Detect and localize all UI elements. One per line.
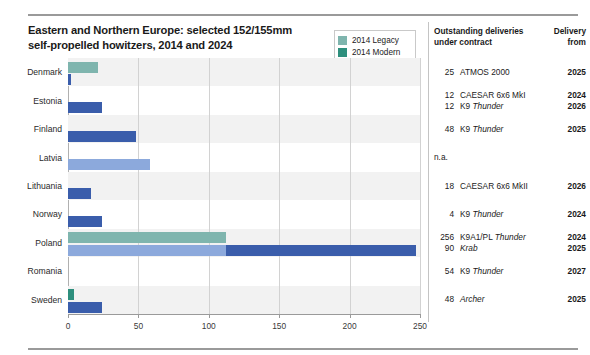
table-cell-system: CAESAR 6x6 MkI (460, 90, 525, 101)
table-cell-quantity: 54 (434, 266, 454, 277)
table-row: 48K9 Thunder2025 (434, 124, 584, 135)
bottom-divider (28, 348, 578, 350)
table-cell-year: 2025 (538, 294, 586, 305)
title-line-2: self-propelled howitzers, 2014 and 2024 (28, 38, 328, 53)
gridline (209, 58, 210, 314)
legend-item-label: 2014 Modern (352, 48, 400, 57)
bar-segment (68, 216, 102, 227)
axis-tick-label: 50 (134, 321, 143, 331)
table-row: 54K9 Thunder2027 (434, 266, 584, 277)
system-name-plain: K9A1/PL (460, 232, 495, 242)
gridline (279, 58, 280, 314)
axis-tick-label: 250 (413, 321, 427, 331)
system-name-italic: Thunder (472, 101, 503, 111)
row-band (68, 286, 420, 314)
legend-item-label: 2014 Legacy (352, 36, 399, 45)
system-name-plain: ATMOS 2000 (460, 67, 510, 77)
table-row: 4K9 Thunder2024 (434, 209, 584, 220)
category-label: Norway (33, 209, 62, 219)
table-cell-quantity: 25 (434, 67, 454, 78)
table-cell-year: 2024 (538, 232, 586, 243)
table-row: 12CAESAR 6x6 MkI2024 (434, 90, 584, 101)
system-name-plain: K9 (460, 124, 472, 134)
system-name-plain: CAESAR 6x6 MkII (460, 181, 528, 191)
bar-segment (68, 102, 102, 113)
axis-tick-label: 200 (343, 321, 357, 331)
table-cell-quantity: 12 (434, 101, 454, 112)
table-cell-quantity: 4 (434, 209, 454, 220)
category-label: Lithuania (27, 181, 62, 191)
table-header-delivery-line2: from (538, 37, 586, 48)
axis-tick-label: 100 (202, 321, 216, 331)
system-name-plain: CAESAR 6x6 MkI (460, 90, 525, 100)
system-name-italic: Thunder (472, 209, 503, 219)
gridline (138, 58, 139, 314)
table-cell-system: Krab (460, 243, 478, 254)
category-label: Denmark (27, 67, 62, 77)
system-name-plain: K9 (460, 209, 472, 219)
axis-tick (138, 314, 139, 318)
axis-tick-label: 150 (272, 321, 286, 331)
bar-segment (68, 74, 71, 85)
table-cell-system: Archer (460, 294, 484, 305)
axis-tick (420, 314, 421, 318)
category-label: Sweden (31, 295, 62, 305)
system-name-italic: Thunder (472, 266, 503, 276)
table-header-deliveries: Outstanding deliveries under contract (434, 26, 529, 48)
chart-figure: Eastern and Northern Europe: selected 15… (0, 0, 590, 355)
table-separator (428, 22, 429, 322)
table-cell-system: ATMOS 2000 (460, 67, 510, 78)
table-row: 18CAESAR 6x6 MkII2026 (434, 181, 584, 192)
legend-item: 2014 Legacy (338, 34, 411, 46)
top-divider (28, 14, 578, 16)
category-label: Estonia (33, 96, 62, 106)
category-label: Romania (28, 266, 62, 276)
gridline (350, 58, 351, 314)
category-label: Latvia (39, 153, 62, 163)
table-cell-quantity: 256 (434, 232, 454, 243)
row-band (68, 58, 420, 86)
table-cell-quantity: 18 (434, 181, 454, 192)
table-row: 256K9A1/PL Thunder2024 (434, 232, 584, 243)
axis-baseline (68, 314, 420, 315)
bar-segment (68, 302, 102, 313)
table-row: 48Archer2025 (434, 294, 584, 305)
table-cell-year: 2027 (538, 266, 586, 277)
table-row: 90Krab2025 (434, 243, 584, 254)
table-cell-year: 2025 (538, 67, 586, 78)
system-name-italic: Thunder (495, 232, 526, 242)
system-name-italic: Krab (460, 243, 478, 253)
table-header-delivery-from: Delivery from (538, 26, 586, 48)
bar-segment (68, 62, 98, 73)
system-name-italic: Thunder (472, 124, 503, 134)
table-cell-year: 2026 (538, 181, 586, 192)
axis-tick (350, 314, 351, 318)
table-cell-system: K9 Thunder (460, 209, 503, 220)
table-cell-system: K9 Thunder (460, 124, 503, 135)
axis-tick (279, 314, 280, 318)
bar-segment (68, 159, 150, 170)
table-header-deliveries-line2: under contract (434, 37, 529, 48)
axis-tick (68, 314, 69, 318)
bar-segment (68, 131, 136, 142)
bar-segment (226, 245, 416, 256)
deliveries-table: 25ATMOS 2000202512CAESAR 6x6 MkI202412K9… (434, 58, 584, 314)
gridline (420, 58, 421, 314)
system-name-plain: K9 (460, 266, 472, 276)
table-cell-quantity: 48 (434, 294, 454, 305)
table-row: 12K9 Thunder2026 (434, 101, 584, 112)
system-name-italic: Archer (460, 294, 484, 304)
bar-segment (68, 232, 226, 243)
row-band (68, 172, 420, 200)
table-cell-quantity: 48 (434, 124, 454, 135)
bar-segment (68, 289, 74, 300)
table-header-delivery-line1: Delivery (538, 26, 586, 37)
bar-segment (68, 188, 91, 199)
category-axis-labels: DenmarkEstoniaFinlandLatviaLithuaniaNorw… (0, 58, 62, 314)
axis-tick (209, 314, 210, 318)
system-name-plain: K9 (460, 101, 472, 111)
table-cell-quantity: 90 (434, 243, 454, 254)
plot-area: 050100150200250 (68, 58, 420, 314)
table-header-deliveries-line1: Outstanding deliveries (434, 26, 529, 37)
table-cell-system: K9 Thunder (460, 101, 503, 112)
